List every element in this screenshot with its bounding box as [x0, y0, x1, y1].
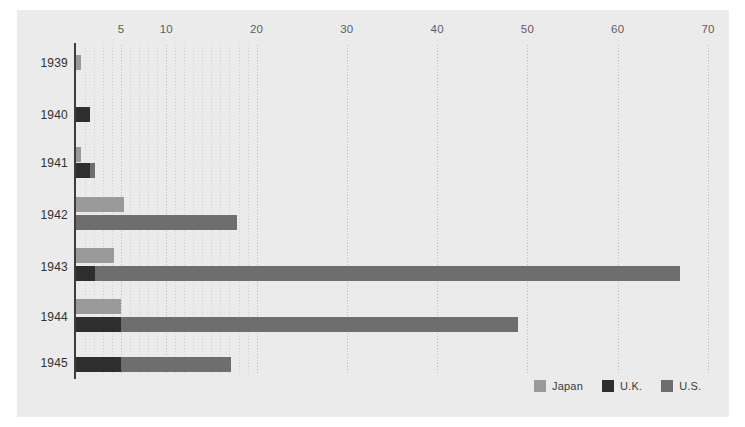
bar-1941-us — [90, 163, 95, 178]
legend-label: Japan — [552, 380, 583, 392]
bar-1944-us — [121, 317, 518, 332]
y-axis-tick-label-1940: 1940 — [41, 108, 69, 122]
y-axis-tick-label-1941: 1941 — [41, 156, 69, 170]
bar-1941-japan — [76, 147, 81, 162]
x-axis-tick-label: 20 — [250, 23, 263, 35]
gridline-major — [708, 45, 709, 375]
legend-item-japan[interactable]: Japan — [534, 380, 583, 392]
bar-1945-uk — [76, 357, 121, 372]
bar-1939-japan — [76, 55, 81, 70]
x-axis-tick-label: 30 — [340, 23, 353, 35]
y-axis-tick-labels: 1939194019411942194319441945 — [0, 45, 68, 375]
legend-swatch-icon — [661, 380, 673, 392]
bar-1942-japan — [76, 197, 124, 212]
x-axis-tick-label: 50 — [521, 23, 534, 35]
y-axis-tick-label-1945: 1945 — [41, 356, 69, 370]
bar-1943-uk — [76, 266, 95, 281]
bar-1944-uk — [76, 317, 121, 332]
gridline-major — [618, 45, 619, 375]
y-axis-tick-label-1939: 1939 — [41, 56, 69, 70]
chart-legend: JapanU.K.U.S. — [534, 377, 713, 395]
chart-figure: 1939194019411942194319441945 51020304050… — [0, 0, 745, 427]
x-axis-tick-label: 40 — [431, 23, 444, 35]
x-axis-tick-label: 5 — [118, 23, 125, 35]
chart-plot-area: 510203040506070 — [76, 45, 708, 375]
bar-1943-us — [95, 266, 680, 281]
legend-item-us[interactable]: U.S. — [661, 380, 701, 392]
x-axis-tick-label: 10 — [160, 23, 173, 35]
y-axis-tick-label-1943: 1943 — [41, 260, 69, 274]
legend-label: U.K. — [620, 380, 642, 392]
bar-1943-japan — [76, 248, 114, 263]
bar-1940-uk — [76, 107, 90, 122]
legend-swatch-icon — [534, 380, 546, 392]
bar-1945-us — [121, 357, 231, 372]
legend-label: U.S. — [679, 380, 701, 392]
legend-swatch-icon — [602, 380, 614, 392]
bar-1942-us — [76, 215, 237, 230]
x-axis-tick-label: 70 — [701, 23, 714, 35]
y-axis-tick-label-1942: 1942 — [41, 208, 69, 222]
gridline-major — [527, 45, 528, 375]
bar-1944-japan — [76, 299, 121, 314]
y-axis-tick-label-1944: 1944 — [41, 310, 69, 324]
bar-1941-uk — [76, 163, 90, 178]
x-axis-tick-label: 60 — [611, 23, 624, 35]
legend-item-uk[interactable]: U.K. — [602, 380, 642, 392]
